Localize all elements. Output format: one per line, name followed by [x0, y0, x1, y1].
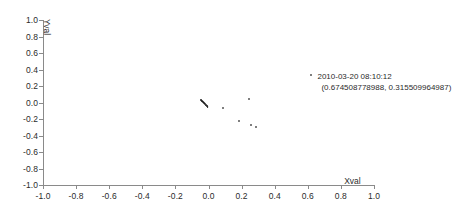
y-tick-mark [39, 86, 43, 87]
x-tick-label: -0.8 [69, 191, 84, 201]
y-tick-mark [39, 136, 43, 137]
x-tick-mark [242, 185, 243, 189]
data-point[interactable] [255, 126, 257, 128]
data-point[interactable] [250, 124, 252, 126]
y-tick-mark [39, 119, 43, 120]
x-tick-label: -1.0 [35, 191, 50, 201]
x-tick-label: 0.8 [335, 191, 347, 201]
data-point[interactable] [310, 74, 312, 76]
y-tick-label: 0.2 [16, 81, 38, 91]
data-point[interactable] [248, 98, 250, 100]
y-axis-line [43, 20, 44, 185]
x-tick-label: -0.4 [135, 191, 150, 201]
scatter-plot: -1.0-0.8-0.6-0.4-0.20.00.20.40.60.81.0 1… [0, 0, 452, 214]
data-point[interactable] [200, 99, 202, 101]
annotation-coordinates: (0.674508778988, 0.315509964987) [317, 83, 451, 94]
y-tick-mark [39, 169, 43, 170]
x-tick-mark [275, 185, 276, 189]
x-tick-label: 0.0 [202, 191, 214, 201]
y-tick-label: 0.6 [16, 48, 38, 58]
data-point[interactable] [222, 107, 224, 109]
y-tick-label: -1.0 [16, 180, 38, 190]
y-axis-title: Yval [42, 19, 52, 35]
y-tick-mark [39, 37, 43, 38]
point-annotation: 2010-03-20 08:10:12 (0.674508778988, 0.3… [317, 72, 451, 93]
x-tick-label: -0.2 [168, 191, 183, 201]
x-tick-label: -0.6 [102, 191, 117, 201]
y-tick-mark [39, 53, 43, 54]
x-tick-mark [308, 185, 309, 189]
x-tick-mark [374, 185, 375, 189]
y-tick-label: 0.4 [16, 65, 38, 75]
annotation-timestamp: 2010-03-20 08:10:12 [317, 72, 451, 83]
x-tick-mark [341, 185, 342, 189]
x-tick-mark [209, 185, 210, 189]
x-tick-mark [76, 185, 77, 189]
y-tick-label: -0.2 [16, 114, 38, 124]
y-tick-mark [39, 70, 43, 71]
y-tick-mark [39, 185, 43, 186]
x-axis-title: Xval [344, 176, 361, 186]
x-tick-label: 0.2 [236, 191, 248, 201]
data-point[interactable] [207, 106, 209, 108]
x-tick-mark [109, 185, 110, 189]
x-tick-label: 0.4 [269, 191, 281, 201]
y-tick-label: -0.4 [16, 131, 38, 141]
x-tick-mark [43, 185, 44, 189]
y-tick-label: -0.6 [16, 147, 38, 157]
x-tick-label: 0.6 [302, 191, 314, 201]
data-point[interactable] [238, 120, 240, 122]
y-tick-mark [39, 152, 43, 153]
y-tick-label: 0.0 [16, 98, 38, 108]
y-tick-mark [39, 103, 43, 104]
x-tick-mark [175, 185, 176, 189]
y-tick-label: 0.8 [16, 32, 38, 42]
y-tick-label: 1.0 [16, 15, 38, 25]
x-tick-label: 1.0 [368, 191, 380, 201]
y-tick-label: -0.8 [16, 164, 38, 174]
x-tick-mark [142, 185, 143, 189]
